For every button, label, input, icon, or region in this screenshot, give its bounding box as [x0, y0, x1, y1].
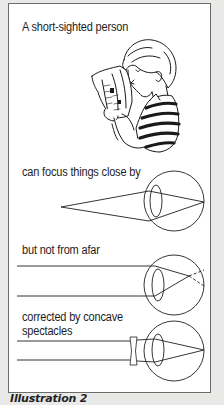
eye-diagram-near [61, 171, 204, 231]
concave-spectacle-lens [130, 337, 137, 365]
eyeball [144, 171, 204, 231]
diagram-canvas [0, 0, 224, 405]
person-reading-illustration [92, 40, 179, 152]
figure-caption: Illustration 2 [10, 392, 87, 405]
eye-diagram-far [17, 255, 204, 315]
eye-lens [150, 185, 162, 217]
eyeball [144, 321, 204, 381]
eye-diagram-corrected [17, 321, 204, 381]
